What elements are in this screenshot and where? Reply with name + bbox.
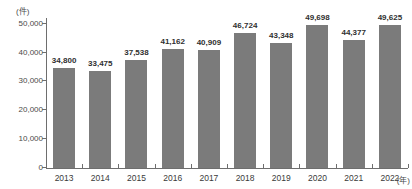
- bar-slot: 46,724: [227, 0, 263, 168]
- x-axis-category-label: 2013: [55, 173, 74, 184]
- y-axis-tick-label: 20,000: [19, 105, 43, 115]
- x-axis-tick-mark: [155, 164, 156, 168]
- y-axis-unit-label: (件): [16, 7, 29, 17]
- bar-slot: 41,162: [155, 0, 191, 168]
- bar-chart: (件) (年) 010,00020,00030,00040,00050,000 …: [0, 0, 412, 189]
- bar[interactable]: [343, 40, 365, 168]
- bar-slot: 49,625: [372, 0, 408, 168]
- y-axis-tick: 30,000: [0, 76, 52, 86]
- y-axis-tick-label: 40,000: [19, 48, 43, 58]
- x-axis-tick-mark: [408, 164, 409, 168]
- x-axis-category-label: 2022: [380, 173, 399, 184]
- x-axis-tick-mark: [263, 164, 264, 168]
- x-axis-tick-mark: [299, 164, 300, 168]
- bar[interactable]: [162, 49, 184, 168]
- bar-value-label: 49,625: [378, 13, 402, 23]
- bar[interactable]: [89, 71, 111, 168]
- bar-value-label: 41,162: [160, 37, 184, 47]
- x-axis-ticks: 2013201420152016201720182019202020212022: [46, 168, 408, 189]
- y-axis-tick: 20,000: [0, 105, 52, 115]
- bar-value-label: 44,377: [341, 28, 365, 38]
- x-axis-category-label: 2016: [163, 173, 182, 184]
- bar-slot: 49,698: [299, 0, 335, 168]
- bar[interactable]: [234, 33, 256, 168]
- x-axis-tick-mark: [336, 164, 337, 168]
- x-axis-tick-mark: [118, 164, 119, 168]
- bar-value-label: 40,909: [197, 38, 221, 48]
- bar-slot: 37,538: [118, 0, 154, 168]
- y-axis-tick: 50,000: [0, 19, 52, 29]
- x-axis-category-label: 2015: [127, 173, 146, 184]
- y-axis-tick: 10,000: [0, 134, 52, 144]
- bar-slot: 44,377: [336, 0, 372, 168]
- bar[interactable]: [198, 50, 220, 168]
- bars-layer: 34,80033,47537,53841,16240,90946,72443,3…: [46, 0, 408, 168]
- x-axis-tick-mark: [46, 164, 47, 168]
- x-axis-tick-mark: [82, 164, 83, 168]
- y-axis-tick: 40,000: [0, 48, 52, 58]
- bar-slot: 40,909: [191, 0, 227, 168]
- bar-slot: 34,800: [46, 0, 82, 168]
- x-axis-category-label: 2020: [308, 173, 327, 184]
- x-axis-tick-mark: [372, 164, 373, 168]
- bar-value-label: 34,800: [52, 56, 76, 66]
- x-axis-category-label: 2017: [199, 173, 218, 184]
- x-axis-category-label: 2018: [236, 173, 255, 184]
- y-axis-tick-label: 0: [39, 163, 43, 173]
- bar-value-label: 33,475: [88, 59, 112, 69]
- bar[interactable]: [53, 68, 75, 168]
- bar[interactable]: [270, 43, 292, 168]
- y-axis-tick-label: 30,000: [19, 76, 43, 86]
- x-axis-category-label: 2014: [91, 173, 110, 184]
- bar-value-label: 46,724: [233, 21, 257, 31]
- bar[interactable]: [306, 25, 328, 168]
- bar-value-label: 43,348: [269, 31, 293, 41]
- x-axis-tick-mark: [191, 164, 192, 168]
- x-axis-category-label: 2021: [344, 173, 363, 184]
- y-axis-tick: 0: [0, 163, 52, 173]
- bar[interactable]: [379, 25, 401, 168]
- x-axis-tick-mark: [227, 164, 228, 168]
- bar-slot: 43,348: [263, 0, 299, 168]
- bar[interactable]: [125, 60, 147, 168]
- x-axis-category-label: 2019: [272, 173, 291, 184]
- bar-slot: 33,475: [82, 0, 118, 168]
- bar-value-label: 37,538: [124, 48, 148, 58]
- y-axis-tick-label: 50,000: [19, 19, 43, 29]
- y-axis-tick-label: 10,000: [19, 134, 43, 144]
- bar-value-label: 49,698: [305, 13, 329, 23]
